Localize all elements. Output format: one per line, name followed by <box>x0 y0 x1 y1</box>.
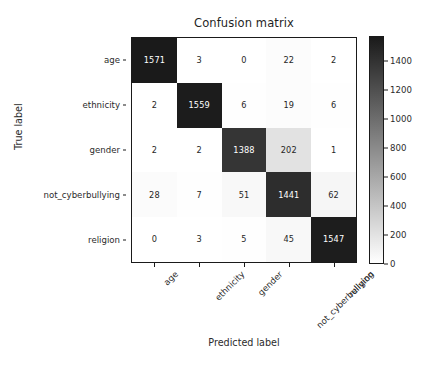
heatmap-cell: 2 <box>311 38 356 83</box>
heatmap-cell-value: 1571 <box>144 56 165 64</box>
heatmap-cell: 1571 <box>132 38 177 83</box>
colorbar-tick-mark <box>384 89 388 90</box>
colorbar-gradient <box>370 37 383 263</box>
heatmap-cell: 22 <box>266 38 311 83</box>
heatmap-cell-value: 7 <box>197 191 202 199</box>
heatmap-cell-value: 62 <box>328 191 339 199</box>
colorbar-tick-label: 1000 <box>390 114 412 124</box>
heatmap-cell-value: 45 <box>283 235 294 243</box>
heatmap-cell: 2 <box>132 83 177 128</box>
x-axis-title: Predicted label <box>131 337 357 348</box>
heatmap-cell-value: 1 <box>331 146 336 154</box>
colorbar-tick-label: 400 <box>390 201 406 211</box>
colorbar <box>369 36 384 264</box>
heatmap-cell-value: 1441 <box>278 191 299 199</box>
heatmap-cell-value: 6 <box>331 101 336 109</box>
heatmap-cell: 2 <box>132 128 177 173</box>
x-axis-tick-mark <box>199 263 200 267</box>
y-axis-tick-mark <box>123 150 127 151</box>
x-axis-tick-label: age <box>161 269 179 287</box>
heatmap-cell-value: 5 <box>241 235 246 243</box>
heatmap-cell: 5 <box>222 217 267 262</box>
x-axis-tick-labels: ageethnicitygendernot_cyberbullyingrelig… <box>131 263 357 333</box>
y-axis-tick-label: ethnicity <box>82 100 120 110</box>
heatmap-cell-value: 1388 <box>233 146 254 154</box>
heatmap-plot-area: 1571302222155961962213882021287511441620… <box>131 37 357 263</box>
heatmap-cell: 51 <box>222 172 267 217</box>
colorbar-tick-labels: 0200400600800100012001400 <box>384 36 431 264</box>
colorbar-tick-mark <box>384 205 388 206</box>
confusion-matrix-figure: Confusion matrix True label ageethnicity… <box>0 0 431 366</box>
x-axis-tick-label: religion <box>347 269 377 299</box>
x-axis-tick-mark <box>289 263 290 267</box>
x-axis-tick-mark <box>154 263 155 267</box>
heatmap-cell-value: 0 <box>241 56 246 64</box>
heatmap-cell-value: 19 <box>283 101 294 109</box>
colorbar-tick-mark <box>384 60 388 61</box>
heatmap-cell-value: 3 <box>197 56 202 64</box>
x-axis-tick-mark <box>244 263 245 267</box>
colorbar-tick-mark <box>384 118 388 119</box>
heatmap-cell: 1547 <box>311 217 356 262</box>
heatmap-cell: 6 <box>311 83 356 128</box>
heatmap-cell: 19 <box>266 83 311 128</box>
heatmap-cell-grid: 1571302222155961962213882021287511441620… <box>132 38 356 262</box>
heatmap-cell: 0 <box>132 217 177 262</box>
colorbar-tick-mark <box>384 234 388 235</box>
heatmap-cell-value: 0 <box>152 235 157 243</box>
y-axis-tick-mark <box>123 59 127 60</box>
colorbar-tick-mark <box>384 147 388 148</box>
y-axis-tick-mark <box>123 240 127 241</box>
heatmap-cell-value: 2 <box>331 56 336 64</box>
colorbar-tick-label: 800 <box>390 143 406 153</box>
heatmap-cell: 6 <box>222 83 267 128</box>
y-axis-tick-label: religion <box>88 235 120 245</box>
heatmap-cell-value: 28 <box>149 191 160 199</box>
y-axis-tick-label: age <box>104 55 120 65</box>
y-axis-tick-labels: ageethnicitygendernot_cyberbullyingrelig… <box>0 37 126 263</box>
x-axis-tick-mark <box>334 263 335 267</box>
heatmap-cell-value: 1559 <box>189 101 210 109</box>
colorbar-tick-label: 200 <box>390 230 406 240</box>
heatmap-cell-value: 2 <box>152 101 157 109</box>
heatmap-cell: 1388 <box>222 128 267 173</box>
heatmap-cell-value: 1547 <box>323 235 344 243</box>
heatmap-cell: 3 <box>177 38 222 83</box>
heatmap-cell: 202 <box>266 128 311 173</box>
heatmap-cell-value: 6 <box>241 101 246 109</box>
y-axis-tick-mark <box>123 104 127 105</box>
heatmap-cell: 0 <box>222 38 267 83</box>
heatmap-cell-value: 3 <box>197 235 202 243</box>
heatmap-cell: 1 <box>311 128 356 173</box>
heatmap-cell-value: 22 <box>283 56 294 64</box>
heatmap-cell: 1559 <box>177 83 222 128</box>
y-axis-tick-mark <box>123 195 127 196</box>
page-title: Confusion matrix <box>131 16 357 30</box>
heatmap-cell: 2 <box>177 128 222 173</box>
heatmap-cell: 28 <box>132 172 177 217</box>
heatmap-cell: 62 <box>311 172 356 217</box>
colorbar-tick-label: 600 <box>390 172 406 182</box>
heatmap-cell-value: 2 <box>152 146 157 154</box>
colorbar-tick-label: 0 <box>390 259 395 269</box>
heatmap-cell-value: 51 <box>239 191 250 199</box>
heatmap-cell: 3 <box>177 217 222 262</box>
y-axis-tick-label: gender <box>90 145 120 155</box>
heatmap-cell: 45 <box>266 217 311 262</box>
x-axis-tick-label: gender <box>256 269 285 298</box>
heatmap-cell: 1441 <box>266 172 311 217</box>
heatmap-cell-value: 202 <box>281 146 297 154</box>
y-axis-tick-label: not_cyberbullying <box>43 190 120 200</box>
colorbar-tick-label: 1400 <box>390 56 412 66</box>
colorbar-tick-mark <box>384 176 388 177</box>
colorbar-tick-label: 1200 <box>390 85 412 95</box>
heatmap-cell-value: 2 <box>197 146 202 154</box>
colorbar-tick-mark <box>384 264 388 265</box>
x-axis-tick-label: ethnicity <box>213 269 247 303</box>
heatmap-cell: 7 <box>177 172 222 217</box>
